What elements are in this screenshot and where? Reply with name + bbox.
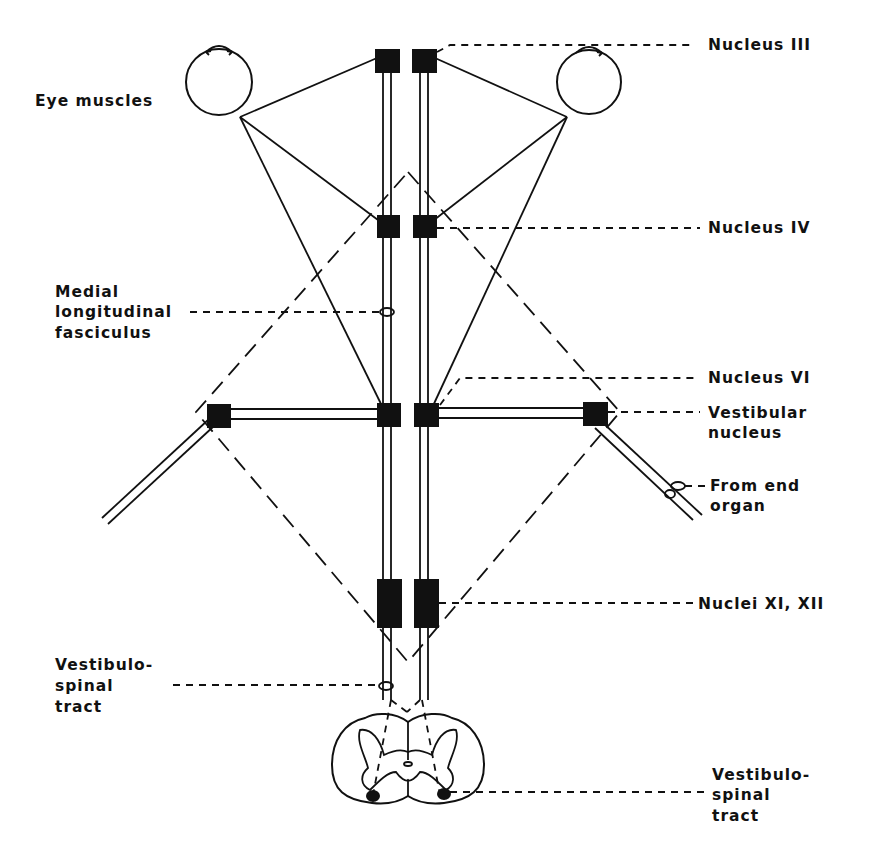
- label-vestibulospinal-right-line3: tract: [712, 807, 759, 825]
- label-mlf-line2: longitudinal: [55, 303, 172, 321]
- right-eye-icon: [557, 47, 621, 114]
- label-vestibular-line1: Vestibular: [708, 404, 807, 422]
- label-mlf-line1: Medial: [55, 283, 119, 301]
- label-vestibulospinal-left-line3: tract: [55, 698, 102, 716]
- label-mlf-line3: fasciculus: [55, 324, 152, 342]
- label-vestibulospinal-right-line2: spinal: [712, 786, 770, 804]
- label-nuclei-xi-xii: Nuclei XI, XII: [698, 595, 824, 613]
- label-vestibulospinal-left-line2: spinal: [55, 677, 113, 695]
- dashed-diamond-outline: [196, 172, 620, 662]
- vestibular-nucleus-blocks: [207, 402, 608, 428]
- label-vestibular-line2: nucleus: [708, 424, 782, 442]
- left-eye-icon: [186, 46, 252, 115]
- vestibular-pathway-diagram: Eye muscles Nucleus III Nucleus IV Media…: [0, 0, 878, 846]
- nucleus-iv-blocks: [377, 215, 437, 238]
- label-vestibulospinal-left-line1: Vestibulo-: [55, 656, 153, 674]
- fiber-section-markers: [379, 308, 685, 690]
- label-nucleus-iv: Nucleus IV: [708, 219, 810, 237]
- spinal-cord-cross-section: [332, 700, 484, 803]
- vestibular-nerve-afferents: [102, 420, 702, 524]
- label-eye-muscles: Eye muscles: [35, 92, 153, 110]
- nucleus-vi-blocks: [377, 403, 439, 427]
- label-nucleus-iii: Nucleus III: [708, 36, 811, 54]
- label-vestibulospinal-right-line1: Vestibulo-: [712, 766, 810, 784]
- nuclei-xi-xii-blocks: [377, 579, 439, 628]
- vestibular-crossing-tract: [230, 408, 585, 419]
- nucleus-iii-blocks: [375, 49, 437, 73]
- label-end-organ-line1: From end: [710, 477, 800, 495]
- eye-muscle-innervation-lines: [240, 58, 567, 408]
- label-nucleus-vi: Nucleus VI: [708, 369, 810, 387]
- label-end-organ-line2: organ: [710, 497, 766, 515]
